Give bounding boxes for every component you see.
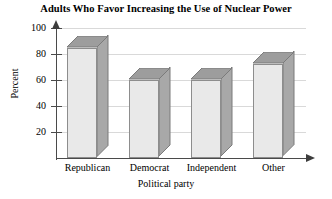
bar-front-face	[191, 80, 221, 158]
bar	[129, 80, 159, 158]
bar-top-face	[191, 68, 234, 81]
bar	[253, 64, 283, 158]
bar	[191, 80, 221, 158]
chart-title: Adults Who Favor Increasing the Use of N…	[0, 3, 332, 15]
bar-side-face	[97, 35, 110, 159]
x-axis-category-label: Other	[234, 162, 314, 173]
bar-top-face	[129, 68, 172, 81]
y-axis-tick-label: 20	[6, 127, 46, 137]
bar-top-face	[67, 36, 110, 49]
bar-front-face	[67, 48, 97, 159]
x-axis-title: Political party	[0, 178, 332, 189]
bar-top-face	[253, 52, 296, 65]
bar-chart: Adults Who Favor Increasing the Use of N…	[0, 0, 332, 199]
y-axis-title: Percent	[9, 54, 20, 114]
bar-front-face	[253, 64, 283, 158]
bar	[67, 48, 97, 159]
y-axis-tick-label: 100	[6, 23, 46, 33]
plot-area	[57, 24, 315, 160]
bar-front-face	[129, 80, 159, 158]
bar-side-face	[283, 51, 296, 158]
